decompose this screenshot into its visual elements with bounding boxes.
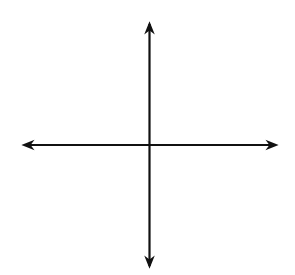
hyperbola-graph [0,0,295,275]
